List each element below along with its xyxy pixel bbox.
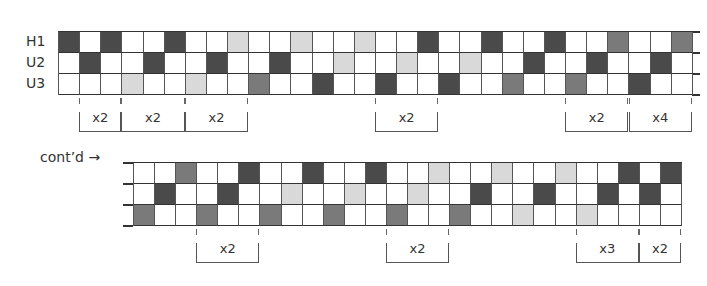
grid-cell xyxy=(218,205,239,226)
grid-cell xyxy=(640,163,661,184)
grid-cell xyxy=(471,184,492,205)
grid-cell xyxy=(534,205,555,226)
grid-cell xyxy=(524,53,545,74)
grid-cell xyxy=(556,163,577,184)
grid-extension-line xyxy=(123,225,133,227)
grid-cell xyxy=(545,32,566,53)
grid-cell xyxy=(619,184,640,205)
repeat-bracket: x2 xyxy=(565,98,628,132)
grid-cell xyxy=(207,32,228,53)
grid-cell xyxy=(313,74,334,95)
grid-cell xyxy=(207,74,228,95)
grid-cell xyxy=(228,74,249,95)
grid-cell xyxy=(661,205,682,226)
grid-cell xyxy=(101,53,122,74)
grid-cell xyxy=(303,184,324,205)
grid-cell xyxy=(144,32,165,53)
grid-cell xyxy=(260,205,281,226)
grid-extension-line xyxy=(692,52,700,54)
grid-cell xyxy=(619,163,640,184)
grid-cell xyxy=(556,205,577,226)
grid-cell xyxy=(239,163,260,184)
grid-cell xyxy=(397,53,418,74)
grid-cell xyxy=(629,74,650,95)
arrow-right-icon: → xyxy=(88,149,100,165)
repeat-bracket: x2 xyxy=(639,229,681,263)
grid-cell xyxy=(450,205,471,226)
row-label-u3: U3 xyxy=(26,75,45,91)
grid-cell xyxy=(577,184,598,205)
grid-extension-line xyxy=(692,94,700,96)
grid-cell xyxy=(640,205,661,226)
grid-cell xyxy=(239,184,260,205)
grid-cell xyxy=(197,163,218,184)
grid-cell xyxy=(598,163,619,184)
grid-cell xyxy=(651,53,672,74)
pattern-grid-section-1 xyxy=(58,31,693,95)
grid-cell xyxy=(418,74,439,95)
repeat-count-label: x2 xyxy=(79,110,121,125)
grid-cell xyxy=(566,74,587,95)
grid-extension-line xyxy=(123,162,133,164)
grid-cell xyxy=(492,205,513,226)
grid-cell xyxy=(282,184,303,205)
grid-cell xyxy=(629,53,650,74)
grid-cell xyxy=(345,184,366,205)
grid-cell xyxy=(260,163,281,184)
grid-cell xyxy=(291,74,312,95)
grid-cell xyxy=(303,205,324,226)
grid-cell xyxy=(144,74,165,95)
grid-cell xyxy=(503,74,524,95)
grid-cell xyxy=(598,205,619,226)
grid-cell xyxy=(524,74,545,95)
grid-cell xyxy=(282,205,303,226)
repeat-count-label: x2 xyxy=(565,110,628,125)
grid-cell xyxy=(334,53,355,74)
grid-cell xyxy=(608,32,629,53)
grid-cell xyxy=(59,53,80,74)
grid-cell xyxy=(355,32,376,53)
grid-cell xyxy=(577,163,598,184)
grid-extension-line xyxy=(692,73,700,75)
repeat-bracket: x2 xyxy=(375,98,438,132)
grid-cell xyxy=(80,53,101,74)
grid-cell xyxy=(345,205,366,226)
repeat-count-label: x2 xyxy=(386,241,449,256)
grid-cell xyxy=(122,32,143,53)
grid-cell xyxy=(144,53,165,74)
repeat-count-label: x3 xyxy=(576,241,639,256)
grid-cell xyxy=(186,32,207,53)
grid-cell xyxy=(270,32,291,53)
repeat-bracket: x4 xyxy=(629,98,692,132)
grid-cell xyxy=(587,53,608,74)
continued-label: cont’d → xyxy=(40,149,100,165)
grid-cell xyxy=(513,184,534,205)
grid-cell xyxy=(640,184,661,205)
grid-cell xyxy=(471,205,492,226)
grid-extension-line xyxy=(123,204,133,206)
grid-cell xyxy=(408,184,429,205)
grid-cell xyxy=(249,32,270,53)
grid-cell xyxy=(397,74,418,95)
grid-cell xyxy=(387,163,408,184)
grid-cell xyxy=(513,163,534,184)
repeat-bracket: x2 xyxy=(79,98,121,132)
grid-cell xyxy=(122,74,143,95)
grid-cell xyxy=(176,205,197,226)
grid-cell xyxy=(418,53,439,74)
grid-cell xyxy=(408,163,429,184)
grid-extension-line xyxy=(692,31,700,33)
grid-cell xyxy=(324,163,345,184)
grid-cell xyxy=(492,184,513,205)
grid-cell xyxy=(418,32,439,53)
repeat-bracket: x2 xyxy=(386,229,449,263)
grid-cell xyxy=(260,184,281,205)
grid-cell xyxy=(482,32,503,53)
grid-cell xyxy=(387,205,408,226)
grid-cell xyxy=(334,74,355,95)
grid-cell xyxy=(577,205,598,226)
repeat-count-label: x4 xyxy=(629,110,692,125)
grid-cell xyxy=(545,53,566,74)
grid-cell xyxy=(672,53,693,74)
grid-cell xyxy=(471,163,492,184)
